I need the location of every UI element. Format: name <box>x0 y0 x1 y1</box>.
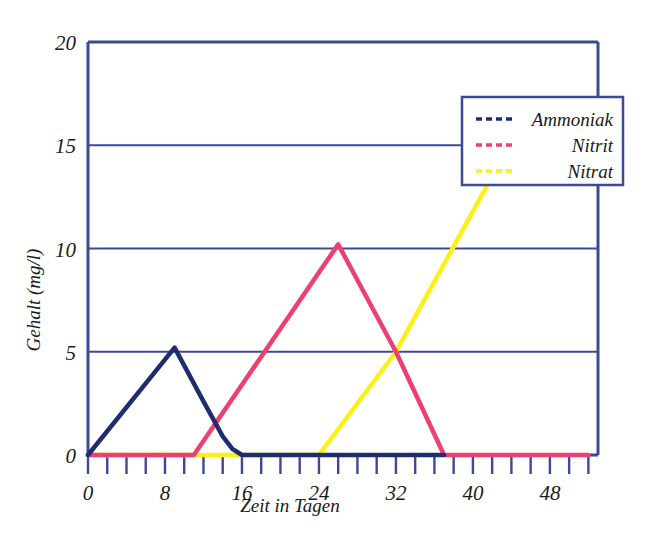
y-tick-label-15: 15 <box>55 134 76 158</box>
y-tick-label-10: 10 <box>55 238 77 262</box>
y-tick-label-0: 0 <box>66 444 77 468</box>
x-tick-label-32: 32 <box>384 481 407 505</box>
legend: AmmoniakNitritNitrat <box>462 97 623 185</box>
x-axis-title: Zeit in Tagen <box>240 495 340 516</box>
legend-ammoniak-label: Ammoniak <box>530 109 614 130</box>
y-axis-title: Gehalt (mg/l) <box>23 249 45 352</box>
x-tick-label-48: 48 <box>539 481 561 505</box>
y-tick-label-20: 20 <box>55 31 77 55</box>
chart-container: 081624324048 05101520 AmmoniakNitritNitr… <box>0 0 652 547</box>
y-tick-label-group: 05101520 <box>55 31 77 468</box>
x-tick-label-40: 40 <box>462 481 484 505</box>
legend-nitrit-label: Nitrit <box>571 135 614 156</box>
x-tick-label-8: 8 <box>160 481 171 505</box>
x-tick-group <box>88 455 588 474</box>
y-tick-label-5: 5 <box>66 341 77 365</box>
line-chart: 081624324048 05101520 AmmoniakNitritNitr… <box>0 0 652 547</box>
legend-nitrat-label: Nitrat <box>567 161 614 182</box>
x-tick-label-0: 0 <box>83 481 94 505</box>
